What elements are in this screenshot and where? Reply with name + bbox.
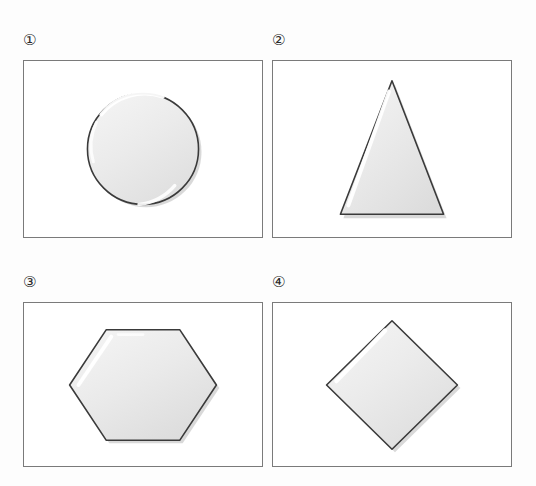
shape-stage-3 [24,303,262,466]
triangle-body [340,81,443,214]
diamond-shape [273,303,511,466]
shape-stage-4 [273,303,511,466]
shape-stage-1 [24,61,262,237]
diamond-body [327,321,458,449]
panel-marker-1: ① [23,33,36,48]
panel-frame-4 [272,302,512,467]
shape-panel-1[interactable]: ① [23,33,263,238]
circle-shape [24,61,262,237]
shape-panel-2[interactable]: ② [272,33,512,238]
hexagon-shape [24,303,262,466]
shape-stage-2 [273,61,511,237]
panel-marker-4: ④ [272,275,285,290]
triangle-shape [273,61,511,237]
panel-marker-3: ③ [23,275,36,290]
shape-panel-4[interactable]: ④ [272,275,512,467]
shape-panel-3[interactable]: ③ [23,275,263,467]
panel-marker-2: ② [272,33,285,48]
worksheet-canvas: ① [0,0,536,486]
panel-frame-2 [272,60,512,238]
panel-frame-1 [23,60,263,238]
panel-frame-3 [23,302,263,467]
